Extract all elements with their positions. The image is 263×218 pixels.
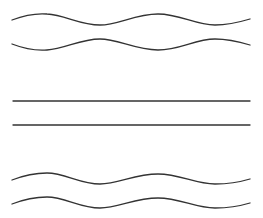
line-pattern-canvas [0, 0, 263, 218]
background [0, 0, 263, 218]
